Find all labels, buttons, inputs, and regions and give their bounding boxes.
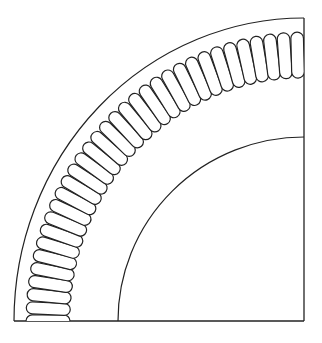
coil-turn [291, 32, 305, 78]
coil-turn [26, 315, 70, 327]
coil-winding-ring [26, 32, 304, 327]
diagram-canvas [0, 0, 322, 343]
coil-diagram [0, 0, 322, 343]
inner-boundary-arc [118, 137, 304, 321]
